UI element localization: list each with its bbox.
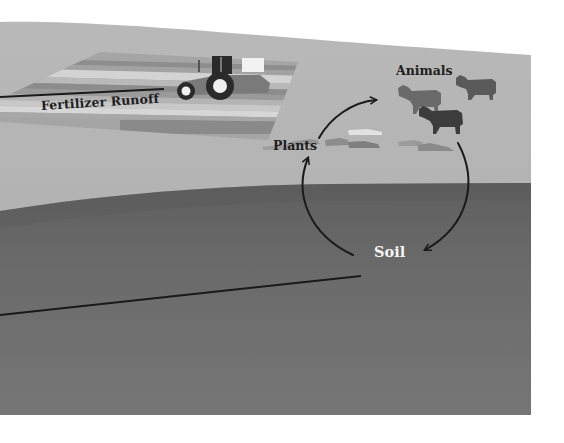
tractor-exhaust	[198, 60, 200, 72]
label-animals: Animals	[396, 65, 453, 78]
sprayer-tank	[242, 58, 264, 72]
label-plants: Plants	[273, 140, 317, 153]
label-soil: Soil	[374, 245, 405, 260]
nutrient-cycle-scene	[0, 0, 564, 443]
ground-soil	[0, 183, 531, 415]
